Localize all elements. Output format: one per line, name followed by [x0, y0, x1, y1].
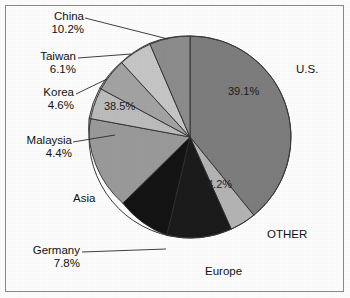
callout-germany-pct: 7.8% [6, 257, 80, 270]
group-label-asia: Asia [73, 192, 95, 205]
leader-line-germany [82, 249, 166, 252]
value-label-us: 39.1% [228, 85, 259, 97]
callout-malaysia-pct: 4.4% [4, 147, 72, 160]
value-label-partial: 1 [180, 190, 186, 202]
leader-line-taiwan [78, 54, 131, 58]
callout-germany-name: Germany [6, 244, 80, 257]
callout-germany: Germany 7.8% [6, 244, 80, 270]
callout-taiwan-pct: 6.1% [14, 63, 76, 76]
callout-china-name: China [18, 10, 84, 23]
group-label-us: U.S. [296, 63, 318, 76]
value-label-asia-total: 38.5% [104, 100, 135, 112]
value-label-other: 4.2% [207, 178, 232, 190]
group-label-europe: Europe [205, 265, 242, 278]
callout-taiwan: Taiwan 6.1% [14, 50, 76, 76]
chart-root: China 10.2% Taiwan 6.1% Korea 4.6% Malay… [0, 0, 350, 298]
callout-korea: Korea 4.6% [14, 86, 74, 112]
group-label-other: OTHER [267, 228, 307, 241]
leader-line-china [85, 18, 168, 39]
callout-korea-name: Korea [14, 86, 74, 99]
callout-malaysia-name: Malaysia [4, 134, 72, 147]
callout-china: China 10.2% [18, 10, 84, 36]
callout-china-pct: 10.2% [18, 23, 84, 36]
callout-malaysia: Malaysia 4.4% [4, 134, 72, 160]
callout-taiwan-name: Taiwan [14, 50, 76, 63]
callout-korea-pct: 4.6% [14, 99, 74, 112]
